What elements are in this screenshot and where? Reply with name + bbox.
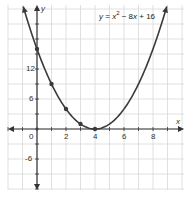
data-point (78, 122, 82, 126)
y-axis-arrow-up (34, 5, 40, 11)
data-point (93, 127, 97, 131)
x-tick-0: 0 (29, 132, 33, 141)
x-tick-4: 4 (93, 132, 97, 141)
y-tick-6: 6 (29, 94, 33, 103)
x-axis-arrow-right (178, 126, 184, 132)
y-axis-label: y (41, 4, 45, 13)
y-tick-neg6: -6 (25, 154, 32, 163)
data-point (49, 82, 53, 86)
x-axis-arrow-left (8, 126, 14, 132)
equation-label: y = x2 − 8x + 16 (99, 10, 155, 21)
data-point (64, 107, 68, 111)
data-point (35, 47, 39, 51)
x-tick-2: 2 (64, 132, 68, 141)
x-axis-label: x (176, 117, 180, 126)
y-tick-12: 12 (26, 64, 35, 73)
x-tick-8: 8 (151, 132, 155, 141)
x-tick-6: 6 (122, 132, 126, 141)
